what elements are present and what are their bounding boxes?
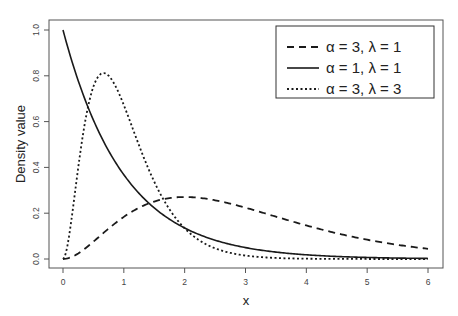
y-axis-title: Density value — [13, 105, 28, 183]
curve-dashed — [63, 197, 428, 259]
x-tick-label: 2 — [182, 277, 187, 287]
y-axis: 0.00.20.40.60.81.0 — [31, 24, 49, 265]
x-tick-label: 5 — [365, 277, 370, 287]
x-tick-label: 4 — [304, 277, 309, 287]
legend-label: α = 1, λ = 1 — [326, 59, 401, 76]
y-tick-label: 1.0 — [31, 24, 41, 36]
y-tick-label: 0.0 — [31, 253, 41, 265]
y-tick-label: 0.2 — [31, 207, 41, 219]
x-tick-label: 1 — [121, 277, 126, 287]
y-tick-label: 0.8 — [31, 70, 41, 82]
x-tick-label: 6 — [426, 277, 431, 287]
density-chart: 0123456 0.00.20.40.60.81.0 x Density val… — [0, 0, 458, 316]
x-tick-label: 0 — [61, 277, 66, 287]
legend: α = 3, λ = 1α = 1, λ = 1α = 3, λ = 3 — [276, 26, 434, 98]
legend-label: α = 3, λ = 3 — [326, 80, 401, 97]
legend-label: α = 3, λ = 1 — [326, 38, 401, 55]
x-axis: 0123456 — [61, 268, 431, 287]
x-axis-title: x — [243, 293, 250, 308]
y-tick-label: 0.6 — [31, 115, 41, 127]
x-tick-label: 3 — [243, 277, 248, 287]
y-tick-label: 0.4 — [31, 161, 41, 173]
